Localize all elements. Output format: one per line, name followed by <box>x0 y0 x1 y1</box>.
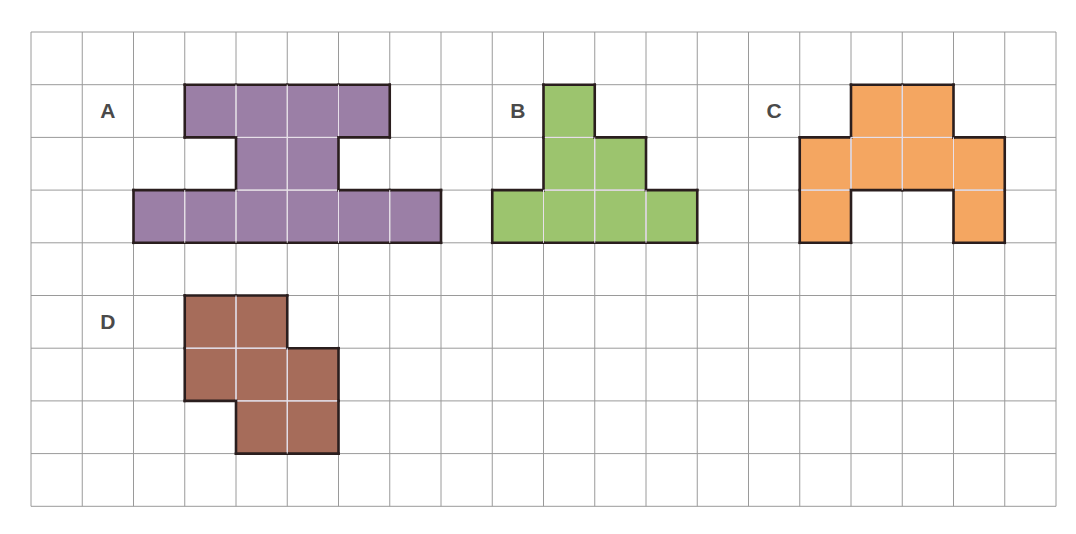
shape-cell <box>339 190 390 243</box>
shape-cell <box>236 85 287 138</box>
shape-cell <box>544 85 595 138</box>
shape-cell <box>236 401 287 454</box>
shape-label-b: B <box>510 99 525 123</box>
shape-label-a: A <box>100 99 115 123</box>
shape-cell <box>287 137 338 190</box>
shape-cell <box>185 348 236 401</box>
shape-cell <box>185 85 236 138</box>
shape-cell <box>287 401 338 454</box>
shape-cell <box>236 137 287 190</box>
square-grid <box>30 31 1060 511</box>
shape-cell <box>595 190 646 243</box>
shape-cell <box>646 190 697 243</box>
shape-cell <box>800 190 851 243</box>
shape-cell <box>287 348 338 401</box>
shape-cell <box>954 190 1005 243</box>
shape-cell <box>185 190 236 243</box>
shape-cell <box>134 190 185 243</box>
shape-cell <box>287 85 338 138</box>
shape-cell <box>236 190 287 243</box>
shape-cell <box>390 190 441 243</box>
shape-cell <box>236 296 287 349</box>
shape-cell <box>492 190 543 243</box>
shape-cell <box>851 85 902 138</box>
shape-label-c: C <box>767 99 782 123</box>
shape-cell <box>595 137 646 190</box>
shape-d <box>185 296 339 454</box>
shape-cell <box>544 137 595 190</box>
shape-cell <box>185 296 236 349</box>
shape-cell <box>902 137 953 190</box>
shape-cell <box>800 137 851 190</box>
shape-cell <box>339 85 390 138</box>
shape-cell <box>287 190 338 243</box>
shape-cell <box>544 190 595 243</box>
shape-cell <box>902 85 953 138</box>
shape-label-d: D <box>100 310 115 334</box>
shape-cell <box>954 137 1005 190</box>
shape-cell <box>851 137 902 190</box>
shape-cell <box>236 348 287 401</box>
